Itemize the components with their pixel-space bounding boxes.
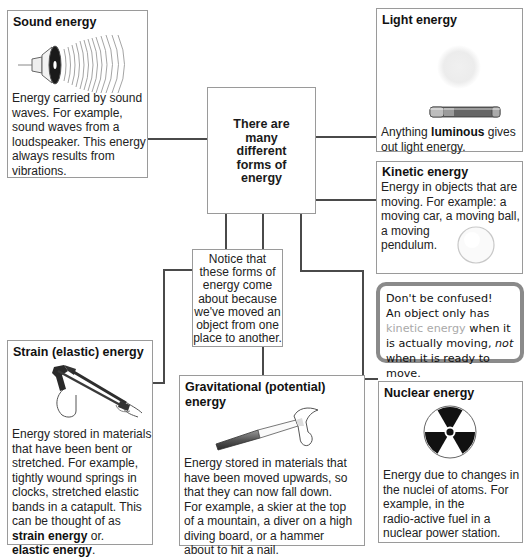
- notice-box: Notice that these forms of energy come a…: [192, 249, 283, 347]
- text: or.: [87, 529, 104, 543]
- description-line: that have been bent or: [12, 442, 151, 457]
- hammer-icon: [212, 404, 330, 452]
- central-line: energy: [208, 172, 315, 186]
- kinetic-energy-box: Kinetic energy Energy in objects that ar…: [376, 161, 523, 274]
- description-line: of a mountain, a diver on a high: [184, 514, 352, 529]
- connector-center-notice-left: [225, 212, 227, 250]
- description-line: Anything luminous gives: [381, 125, 516, 140]
- description-line: clocks, stretched elastic: [12, 485, 151, 500]
- description-line: moving. For example: a: [381, 195, 520, 210]
- description-line: that they can now fall down.: [184, 485, 352, 500]
- light-energy-description: Anything luminous gives out light energy…: [381, 125, 516, 154]
- nuclear-energy-box: Nuclear energy Energy due to changes in …: [378, 381, 523, 543]
- strain-energy-box: Strain (elastic) energy Energy stored in…: [7, 340, 153, 545]
- text: Anything: [381, 125, 431, 139]
- description-line: out light energy.: [381, 140, 516, 155]
- description-line: Energy stored in materials: [12, 427, 151, 442]
- central-line: forms of: [208, 159, 315, 173]
- central-line: many: [208, 132, 315, 146]
- description-line: Energy stored in materials that: [184, 456, 352, 471]
- light-glow-icon: [429, 37, 489, 97]
- description-line: example, in the: [383, 497, 519, 512]
- sound-energy-box: Sound energy Energy carried by sound wav…: [7, 10, 148, 178]
- description-line: waves. For example,: [12, 106, 146, 121]
- central-line: There are: [208, 118, 315, 132]
- text: .: [92, 543, 95, 557]
- description-line: Energy due to changes in: [383, 468, 519, 483]
- connector-notice-gravitational: [262, 346, 264, 376]
- description-line: a moving: [381, 224, 520, 239]
- notice-text: Notice that these forms of energy come a…: [193, 253, 282, 345]
- gravitational-energy-description: Energy stored in materials that have bee…: [184, 456, 352, 558]
- connector-center-kinetic: [315, 199, 376, 201]
- gravitational-energy-box: Gravitational (potential) energy Energy …: [179, 375, 365, 546]
- light-energy-title: Light energy: [382, 13, 457, 28]
- luminous-term: luminous: [431, 125, 484, 139]
- connector-notice-strain-a: [163, 269, 192, 271]
- emphasis-not: not: [495, 337, 513, 350]
- title-line: Gravitational (potential): [185, 380, 325, 395]
- note-line: Don't be confused!: [386, 291, 516, 306]
- description-line: nuclear power station.: [383, 526, 519, 541]
- central-concept-text: There are many different forms of energy: [208, 118, 315, 186]
- strain-energy-description: Energy stored in materials that have bee…: [12, 427, 151, 558]
- note-line: kinetic energy when it: [386, 321, 516, 336]
- description-line: the nuclei of atoms. For: [383, 483, 519, 498]
- flashlight-icon: [429, 105, 501, 119]
- notice-line: about because: [193, 293, 282, 306]
- description-line: always results from: [12, 149, 146, 164]
- kinetic-energy-highlight: kinetic energy: [386, 322, 466, 335]
- description-line: Energy carried by sound: [12, 91, 146, 106]
- note-line: is actually moving, not: [386, 336, 516, 351]
- sound-energy-description: Energy carried by sound waves. For examp…: [12, 91, 146, 178]
- connector-notice-strain-c: [152, 382, 165, 384]
- note-line: An object only has: [386, 306, 516, 321]
- notice-line: energy come: [193, 279, 282, 292]
- sound-energy-title: Sound energy: [13, 15, 96, 30]
- description-line: bands in a catapult. This: [12, 500, 151, 515]
- description-line: vibrations.: [12, 164, 146, 179]
- description-line: For example, a skier at the top: [184, 500, 352, 515]
- loudspeaker-icon: [18, 33, 138, 93]
- note-line: when it is ready to move.: [386, 351, 516, 381]
- central-line: different: [208, 145, 315, 159]
- description-line: loudspeaker. This energy: [12, 135, 146, 150]
- connector-center-nuclear-a: [300, 212, 302, 272]
- text: gives: [484, 125, 515, 139]
- description-line: tightly wound springs in: [12, 471, 151, 486]
- light-energy-box: Light energy Anything luminous gives out…: [376, 8, 523, 152]
- kinetic-energy-title: Kinetic energy: [382, 165, 468, 180]
- description-line: stretched. For example,: [12, 456, 151, 471]
- kinetic-energy-description: Energy in objects that are moving. For e…: [381, 180, 520, 253]
- description-line: elastic energy.: [12, 543, 151, 558]
- connector-sound-center: [147, 138, 209, 140]
- notice-line: place to another.: [193, 332, 282, 345]
- connector-center-light: [315, 136, 376, 138]
- description-line: moving car, a moving ball,: [381, 209, 520, 224]
- connector-center-notice-right: [262, 212, 264, 250]
- text: when it: [466, 322, 511, 335]
- connector-center-nuclear-c: [362, 270, 364, 380]
- description-line: about to hit a nail.: [184, 543, 352, 558]
- text: is actually moving,: [386, 337, 495, 350]
- description-line: Energy in objects that are: [381, 180, 520, 195]
- radiation-icon: [422, 404, 478, 460]
- strain-energy-title: Strain (elastic) energy: [13, 345, 144, 360]
- central-concept-box: There are many different forms of energy: [207, 87, 316, 214]
- nuclear-energy-description: Energy due to changes in the nuclei of a…: [383, 468, 519, 541]
- description-line: diving board, or a hammer: [184, 529, 352, 544]
- description-line: have been moved upwards, so: [184, 471, 352, 486]
- connector-notice-strain-b: [163, 269, 165, 384]
- description-line: radio-active fuel in a: [383, 512, 519, 527]
- dont-be-confused-note: Don't be confused! An object only has ki…: [376, 282, 524, 363]
- description-line: sound waves from a: [12, 120, 146, 135]
- strain-energy-term: strain energy: [12, 529, 87, 543]
- description-line: pendulum.: [381, 238, 520, 253]
- description-line: can be thought of as: [12, 514, 151, 529]
- connector-center-nuclear-b: [300, 270, 364, 272]
- description-line: strain energy or.: [12, 529, 151, 544]
- elastic-energy-term: elastic energy: [12, 543, 92, 557]
- catapult-icon: [46, 361, 146, 421]
- nuclear-energy-title: Nuclear energy: [384, 386, 474, 401]
